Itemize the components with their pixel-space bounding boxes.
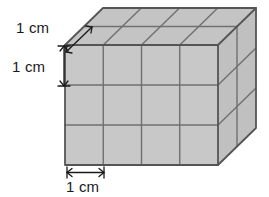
depth-dimension-label: 1 cm xyxy=(16,19,49,36)
prism-faces xyxy=(65,8,256,165)
prism-figure: 1 cm 1 cm 1 cm xyxy=(0,0,269,197)
width-dimension-label: 1 cm xyxy=(66,178,99,195)
height-dimension-label: 1 cm xyxy=(12,58,45,75)
width-dimension xyxy=(67,167,104,178)
unit-cube-prism-diagram: 1 cm 1 cm 1 cm xyxy=(0,0,269,197)
